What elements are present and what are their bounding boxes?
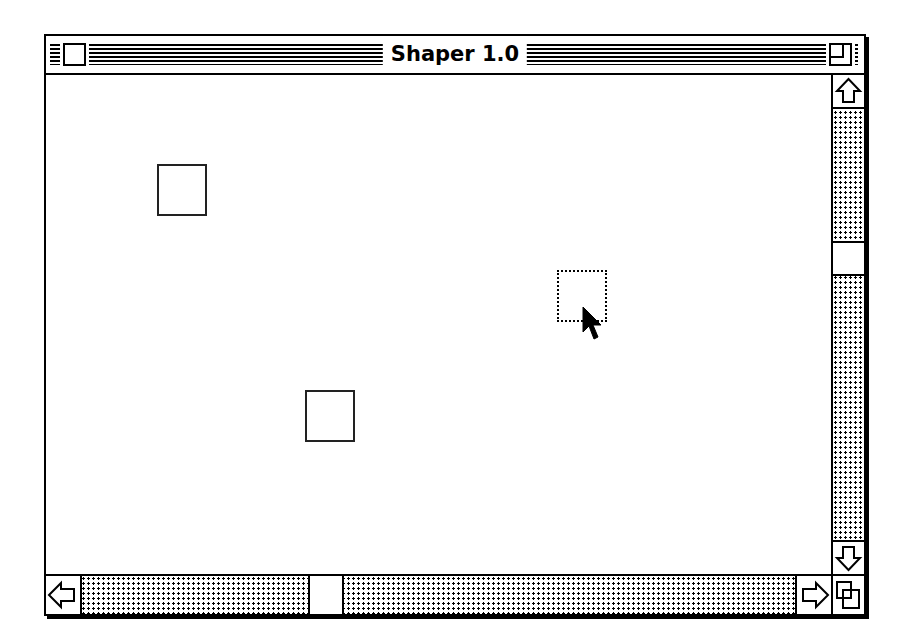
drawing-canvas[interactable]: [46, 75, 831, 574]
scroll-right-button[interactable]: [795, 576, 831, 614]
title-bar[interactable]: Shaper 1.0: [46, 36, 864, 75]
window-title: Shaper 1.0: [383, 40, 527, 69]
scroll-left-button[interactable]: [46, 576, 82, 614]
up-arrow-icon: [833, 75, 864, 107]
size-box-icon: [833, 576, 864, 614]
down-arrow-icon: [833, 542, 864, 574]
zoom-box-icon[interactable]: [829, 43, 852, 66]
left-arrow-icon: [46, 576, 80, 614]
right-arrow-icon: [797, 576, 831, 614]
close-box-icon[interactable]: [63, 43, 86, 66]
scroll-up-button[interactable]: [833, 75, 864, 109]
shaper-window: Shaper 1.0: [44, 34, 866, 616]
horizontal-scroll-thumb[interactable]: [308, 576, 344, 614]
square-shape[interactable]: [305, 390, 355, 442]
arrow-pointer-icon: [582, 306, 604, 344]
square-shape[interactable]: [157, 164, 207, 216]
vertical-scrollbar[interactable]: [831, 75, 864, 574]
size-box[interactable]: [831, 574, 864, 614]
scroll-down-button[interactable]: [833, 540, 864, 574]
vertical-scroll-thumb[interactable]: [833, 241, 864, 276]
horizontal-scrollbar[interactable]: [46, 574, 831, 614]
